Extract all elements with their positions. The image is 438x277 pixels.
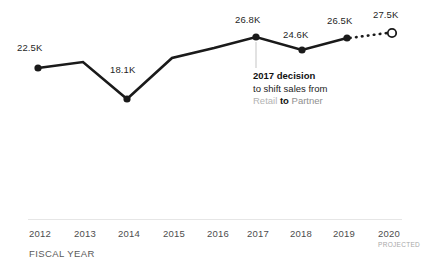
x-tick-2016: 2016 <box>207 228 229 239</box>
annotation-line-2: to shift sales from <box>253 83 373 96</box>
line-chart: 22.5K 18.1K 26.8K 24.6K 26.5K 27.5K 2017… <box>0 0 438 277</box>
data-point-2017 <box>252 33 259 40</box>
x-tick-2014: 2014 <box>118 228 140 239</box>
value-label-2018: 24.6K <box>283 29 308 40</box>
x-tick-2015: 2015 <box>163 228 185 239</box>
annotation-partner-word: Partner <box>292 95 323 106</box>
x-tick-2012: 2012 <box>29 228 51 239</box>
value-label-2014: 18.1K <box>110 64 135 75</box>
data-point-2018 <box>298 46 305 53</box>
chart-annotation: 2017 decision to shift sales from Retail… <box>253 70 373 108</box>
value-label-2020: 27.5K <box>373 9 398 20</box>
value-label-2012: 22.5K <box>17 42 42 53</box>
x-tick-2013: 2013 <box>74 228 96 239</box>
data-point-2012 <box>34 64 41 71</box>
x-axis-title: FISCAL YEAR <box>29 248 95 259</box>
x-tick-2019: 2019 <box>333 228 355 239</box>
value-label-2017: 26.8K <box>235 14 260 25</box>
data-point-2019 <box>343 34 350 41</box>
annotation-line-1: 2017 decision <box>253 70 373 83</box>
annotation-line-3: Retail to Partner <box>253 95 373 108</box>
x-tick-2017: 2017 <box>247 228 269 239</box>
data-point-2020-projected <box>388 29 396 37</box>
annotation-retail-word: Retail <box>253 95 277 106</box>
projected-note: PROJECTED <box>378 241 420 248</box>
data-point-2014 <box>123 95 130 102</box>
series-line-projected <box>350 33 387 38</box>
axis-divider <box>28 219 402 220</box>
value-label-2019: 26.5K <box>327 15 352 26</box>
annotation-to-word: to <box>280 95 289 106</box>
x-tick-2018: 2018 <box>290 228 312 239</box>
x-tick-2020: 2020 <box>378 228 400 239</box>
